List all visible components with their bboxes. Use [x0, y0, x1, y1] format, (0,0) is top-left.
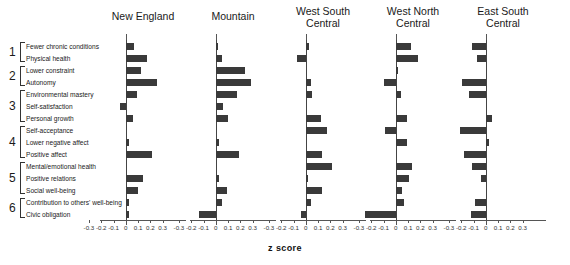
bar: [216, 79, 252, 86]
axis-tick: [330, 220, 331, 223]
group-bracket: [20, 162, 25, 194]
axis-tick: [228, 220, 229, 223]
bar: [199, 211, 216, 218]
axis-tick: [138, 220, 139, 223]
bar: [396, 43, 411, 50]
axis-tick: [179, 220, 180, 223]
bar: [396, 175, 410, 182]
row-label: Civic obligation: [26, 211, 70, 218]
zero-tick-stub: [306, 34, 307, 40]
bar: [216, 103, 223, 110]
axis-tick: [269, 220, 270, 223]
zero-tick-stub: [486, 34, 487, 40]
bar: [396, 115, 407, 122]
axis-tick-label: 0.3: [154, 224, 172, 231]
bar: [472, 43, 486, 50]
axis-tick: [408, 220, 409, 223]
axis-tick-label: 0.3: [244, 224, 262, 231]
bar: [472, 163, 486, 170]
row-label-column: Fewer chronic conditionsPhysical healthL…: [0, 40, 100, 220]
bar: [306, 43, 310, 50]
bar: [126, 187, 138, 194]
panel-2: [190, 40, 276, 220]
bar: [216, 187, 227, 194]
group-number: 3: [9, 100, 16, 112]
bar: [396, 67, 398, 74]
bar: [396, 163, 412, 170]
bar: [471, 211, 486, 218]
panel-title-5: East South Central: [446, 6, 560, 29]
group-number: 1: [9, 46, 16, 58]
axis-tick: [498, 220, 499, 223]
bar: [396, 139, 407, 146]
row-label: Social well-being: [26, 187, 75, 194]
bar: [306, 199, 311, 206]
bar: [481, 175, 486, 182]
row-label: Environmental mastery: [26, 91, 93, 98]
axis-tick-label: 0.3: [334, 224, 352, 231]
bar: [216, 67, 245, 74]
axis-tick-label: 0.3: [514, 224, 532, 231]
group-number: 4: [9, 136, 16, 148]
bar: [216, 55, 222, 62]
axis-tick: [163, 220, 164, 223]
axis-tick-label: 0.3: [424, 224, 442, 231]
bar: [126, 55, 147, 62]
axis-tick: [359, 220, 360, 223]
bar: [126, 139, 130, 146]
group-bracket: [20, 66, 25, 86]
bar: [120, 103, 126, 110]
group-bracket: [20, 42, 25, 62]
x-axis-title: z score: [0, 243, 570, 253]
bar: [306, 163, 332, 170]
bar: [486, 115, 492, 122]
row-label: Positive relations: [26, 175, 76, 182]
axis-tick: [384, 220, 385, 223]
panel-3: [280, 40, 366, 220]
row-label: Self-acceptance: [26, 127, 73, 134]
bar: [216, 151, 239, 158]
panel-header-row: New EnglandMountainWest South CentralWes…: [0, 0, 570, 34]
axis-tick: [114, 220, 115, 223]
bar: [460, 127, 486, 134]
axis-tick: [523, 220, 524, 223]
bar: [216, 91, 237, 98]
bar: [216, 43, 218, 50]
bar: [216, 175, 220, 182]
row-label: Lower constraint: [26, 67, 74, 74]
group-bracket: [20, 198, 25, 218]
bar: [216, 115, 228, 122]
bar: [486, 139, 490, 146]
axis-tick: [371, 220, 372, 223]
bar: [306, 79, 311, 86]
axis-tick: [343, 220, 344, 223]
bar: [475, 199, 486, 206]
zero-reference-line: [486, 40, 487, 220]
bar: [469, 91, 486, 98]
axis-tick: [150, 220, 151, 223]
bar: [306, 175, 308, 182]
bar: [306, 115, 321, 122]
axis-tick: [101, 220, 102, 223]
row-label: Lower negative affect: [26, 139, 89, 146]
zero-tick-stub: [126, 34, 127, 40]
axis-tick: [281, 220, 282, 223]
bar: [384, 79, 396, 86]
panel-4: [370, 40, 456, 220]
group-bracket: [20, 126, 25, 158]
bar: [306, 187, 322, 194]
axis-tick: [449, 220, 450, 223]
bar: [297, 55, 306, 62]
x-axis-5: -0.3-0.2-0.100.10.20.3: [460, 220, 546, 244]
bar: [126, 67, 141, 74]
panel-5: [460, 40, 546, 220]
row-label: Autonomy: [26, 79, 56, 86]
bar: [306, 151, 322, 158]
bar: [216, 139, 220, 146]
group-number: 2: [9, 70, 16, 82]
bar: [385, 127, 396, 134]
z-score-multipanel-bar-chart: New EnglandMountainWest South CentralWes…: [0, 0, 570, 265]
row-label: Mental/emotional health: [26, 163, 96, 170]
axis-tick: [204, 220, 205, 223]
row-label: Physical health: [26, 55, 70, 62]
